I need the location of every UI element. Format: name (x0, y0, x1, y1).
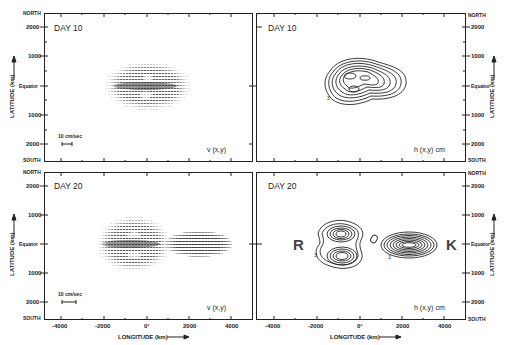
ytick-south-br: SOUTH (468, 316, 486, 322)
ticks-top-right (256, 13, 470, 162)
day-label-top-left: DAY 10 (54, 23, 83, 33)
xtick-l-0: 0° (144, 323, 150, 329)
scale-bar-top (62, 142, 72, 146)
scale-label-top: 10 cm/sec (58, 133, 82, 139)
xtick-r-m4000: -4000 (265, 323, 280, 329)
ytick-north-bl: NORTH (23, 169, 41, 175)
ytick-2000s-br: 2000 (471, 299, 484, 305)
ytick-north-br: NORTH (468, 170, 486, 176)
scale-label-bottom: 10 cm/sec (58, 291, 82, 297)
ytick-south-tl: SOUTH (23, 157, 41, 163)
ytick-1000s-tl: 1000 (28, 112, 41, 118)
ytick-equator-tl: Equator (19, 83, 38, 89)
xtick-r-m2000: -2000 (308, 323, 323, 329)
ytick-1000n-br: 1000 (471, 212, 484, 218)
ylabel-bottom-left: LATITUDE (km) (9, 232, 15, 276)
ytick-2000n-br: 2000 (471, 183, 484, 189)
ytick-1000n-bl: 1000 (28, 212, 41, 218)
xtick-r-0: 0° (357, 323, 363, 329)
kelvin-label: K (446, 236, 457, 253)
xtick-r-2000: 2000 (396, 323, 409, 329)
ylabel-top-left: LATITUDE (km) (9, 74, 15, 118)
ytick-1000s-bl: 1000 (28, 270, 41, 276)
xtick-l-m4000: -4000 (52, 323, 67, 329)
xlabel-right: LONGITUDE (km) (330, 334, 380, 340)
rossby-label: R (293, 236, 304, 253)
ytick-2000s-bl: 2000 (26, 299, 39, 305)
contour-label-3-day10: 3 (327, 95, 330, 101)
field-label-top-right: h (x,y) cm (414, 146, 445, 153)
xtick-l-4000: 4000 (225, 323, 238, 329)
xlabel-left: LONGITUDE (km) (118, 334, 168, 340)
scale-bar-bottom (62, 300, 76, 304)
svg-text:3: 3 (388, 254, 391, 260)
ytick-1000n-tr: 1000 (471, 53, 484, 59)
ytick-2000n-tl: 2000 (26, 24, 39, 30)
day-label-top-right: DAY 10 (268, 23, 297, 33)
contours-day20-rossby (316, 220, 378, 268)
ytick-equator-br: Equator (471, 241, 490, 247)
field-label-bottom-right: h (x,y) cm (414, 304, 445, 311)
ylabel-bottom-right: LATITUDE (km) (489, 232, 495, 276)
ytick-2000s-tr: 2000 (471, 141, 484, 147)
ytick-south-bl: SOUTH (23, 315, 41, 321)
xtick-l-m2000: -2000 (95, 323, 110, 329)
field-label-bottom-left: v (x,y) (207, 304, 226, 311)
day-label-bottom-right: DAY 20 (268, 181, 297, 191)
ytick-equator-tr: Equator (471, 83, 490, 89)
ytick-1000s-tr: 1000 (471, 112, 484, 118)
vector-field-day20 (98, 217, 232, 271)
field-label-top-left: v (x,y) (207, 146, 226, 153)
ytick-north-tr: NORTH (468, 12, 486, 18)
ytick-1000n-tl: 1000 (28, 53, 41, 59)
ytick-1000s-br: 1000 (471, 270, 484, 276)
axis-arrows (12, 56, 496, 339)
svg-text:3: 3 (314, 252, 317, 258)
ytick-2000s-tl: 2000 (26, 141, 39, 147)
ylabel-top-right: LATITUDE (km) (489, 74, 495, 118)
xtick-l-2000: 2000 (183, 323, 196, 329)
ytick-2000n-tr: 2000 (471, 24, 484, 30)
ytick-equator-bl: Equator (19, 241, 38, 247)
ytick-south-tr: SOUTH (468, 157, 486, 163)
day-label-bottom-left: DAY 20 (54, 181, 83, 191)
contours-day10 (325, 58, 406, 104)
vector-field-day10 (106, 62, 190, 110)
ytick-2000n-bl: 2000 (26, 183, 39, 189)
xtick-r-4000: 4000 (438, 323, 451, 329)
ytick-north-tl: NORTH (23, 10, 41, 16)
